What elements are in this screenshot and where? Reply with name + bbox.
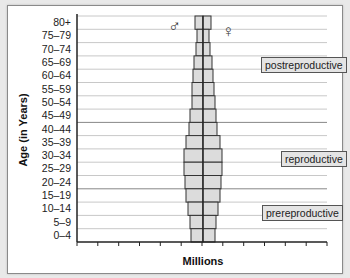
bar-female: [203, 109, 216, 122]
region-label-prereproductive: prereproductive: [262, 205, 343, 221]
bar-female: [203, 43, 210, 56]
bar-female: [203, 16, 211, 29]
y-tick-label: 40–44: [42, 123, 71, 135]
bar-female: [203, 136, 220, 149]
bar-male: [188, 202, 203, 215]
y-tick-label: 50–54: [42, 96, 71, 108]
y-tick-label: 80+: [53, 16, 71, 28]
bar-female: [203, 202, 218, 215]
y-tick-label: 60–64: [42, 69, 71, 81]
bar-female: [203, 215, 216, 228]
y-axis-title: Age (in Years): [17, 93, 29, 166]
population-pyramid-chart: 80+75–7970–7465–6960–6455–5950–5445–4940…: [0, 0, 350, 278]
region-label-reproductive: reproductive: [281, 151, 347, 167]
bar-male: [193, 69, 203, 82]
bar-female: [203, 83, 214, 96]
bar-female: [203, 122, 217, 135]
bar-female: [203, 96, 215, 109]
y-tick-label: 10–14: [42, 202, 71, 214]
bar-female: [203, 69, 213, 82]
x-axis-title: Millions: [183, 255, 224, 267]
bar-female: [203, 229, 215, 242]
bar-male: [186, 189, 203, 202]
y-tick-label: 15–19: [42, 189, 71, 201]
bar-male: [191, 229, 203, 242]
bar-male: [194, 56, 203, 69]
y-tick-label: 35–39: [42, 136, 71, 148]
female-symbol-icon: ♀: [222, 23, 235, 40]
bar-female: [203, 176, 221, 189]
bar-male: [189, 122, 203, 135]
bar-male: [190, 109, 203, 122]
bar-male: [184, 149, 203, 162]
bar-male: [185, 176, 203, 189]
y-tick-label: 70–74: [42, 43, 71, 55]
bar-male: [192, 83, 203, 96]
y-tick-labels: 80+75–7970–7465–6960–6455–5950–5445–4940…: [42, 16, 71, 241]
bar-male: [192, 96, 203, 109]
bar-female: [203, 29, 209, 42]
bar-male: [196, 43, 203, 56]
male-symbol-icon: ♂: [168, 18, 181, 35]
y-tick-label: 30–34: [42, 149, 71, 161]
bar-male: [184, 162, 203, 175]
y-tick-label: 75–79: [42, 29, 71, 41]
bar-male: [195, 16, 203, 29]
bar-male: [186, 136, 203, 149]
bar-male: [197, 29, 203, 42]
bar-male: [190, 215, 203, 228]
y-tick-label: 5–9: [53, 216, 71, 228]
bar-female: [203, 56, 212, 69]
y-tick-label: 45–49: [42, 109, 71, 121]
y-tick-label: 65–69: [42, 56, 71, 68]
y-tick-label: 0–4: [53, 229, 71, 241]
y-tick-label: 25–29: [42, 162, 71, 174]
y-tick-label: 55–59: [42, 83, 71, 95]
bar-female: [203, 149, 222, 162]
y-tick-label: 20–24: [42, 176, 71, 188]
bar-female: [203, 162, 222, 175]
bar-female: [203, 189, 220, 202]
region-label-postreproductive: postreproductive: [261, 57, 347, 73]
